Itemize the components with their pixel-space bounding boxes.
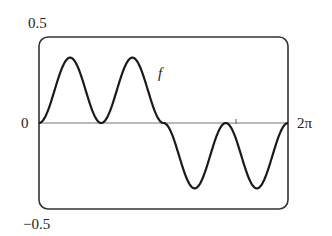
y-tick-label-bottom: −0.5	[23, 217, 50, 232]
plot-area	[0, 0, 332, 236]
x-tick-label-2pi: 2π	[297, 116, 312, 131]
y-tick-label-zero: 0	[21, 116, 29, 131]
y-tick-label-top: 0.5	[28, 16, 47, 31]
curve-label-f: f	[158, 66, 162, 81]
